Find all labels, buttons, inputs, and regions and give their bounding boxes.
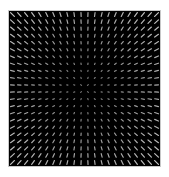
vector-segment: [95, 161, 96, 165]
vector-segment: [32, 140, 35, 143]
vector-segment: [121, 140, 123, 143]
vector-segment: [155, 161, 159, 165]
vector-segment: [95, 113, 96, 114]
vector-segment: [32, 147, 35, 150]
vector-segment: [155, 42, 159, 44]
vector-segment: [39, 42, 41, 44]
vector-segment: [53, 78, 55, 79]
vector-segment: [39, 13, 41, 17]
vector-segment: [108, 133, 109, 135]
vector-segment: [39, 34, 41, 37]
vector-segment: [74, 106, 75, 107]
vector-segment: [115, 106, 117, 107]
vector-segment: [53, 20, 55, 24]
vector-segment: [39, 147, 41, 150]
vector-segment: [128, 34, 130, 37]
vector-segment: [95, 126, 96, 128]
vector-segment: [11, 13, 15, 17]
vector-segment: [128, 27, 130, 30]
vector-segment: [95, 27, 96, 30]
vector-segment: [67, 126, 68, 128]
vector-segment: [135, 27, 138, 30]
vector-segment: [46, 161, 48, 165]
vector-segment: [121, 49, 123, 51]
vector-segment: [46, 20, 48, 24]
vector-segment: [11, 63, 15, 64]
vector-segment: [108, 49, 109, 51]
vector-segment: [121, 34, 123, 37]
vector-segment: [39, 119, 41, 121]
vector-segment: [11, 20, 15, 24]
vector-segment: [115, 56, 117, 58]
vector-segment: [53, 161, 55, 165]
vector-segment: [148, 13, 151, 17]
vector-segment: [115, 78, 117, 79]
vector-segment: [32, 13, 35, 17]
vector-segment: [74, 140, 75, 143]
vector-segment: [18, 42, 21, 44]
vector-segment: [148, 106, 151, 107]
vector-segment: [46, 99, 48, 100]
vector-segment: [135, 126, 138, 128]
vector-segment: [32, 106, 35, 107]
vector-segment: [101, 42, 102, 44]
vector-segment: [135, 154, 138, 158]
vector-segment: [60, 133, 61, 135]
vector-segment: [74, 126, 75, 128]
vector-segment: [53, 147, 55, 150]
vector-segment: [18, 20, 21, 24]
vector-segment: [108, 63, 109, 64]
vector-segment: [18, 13, 21, 17]
vector-segment: [60, 78, 61, 79]
vector-segment: [141, 119, 144, 121]
vector-segment: [128, 13, 130, 17]
vector-segment: [135, 119, 138, 121]
vector-segment: [60, 154, 61, 158]
vector-segment: [155, 119, 159, 121]
vector-segment: [18, 147, 21, 150]
vector-segment: [74, 27, 75, 30]
vector-segment: [115, 99, 117, 100]
vector-segment: [115, 140, 117, 143]
vector-segment: [18, 63, 21, 64]
vector-segment: [148, 78, 151, 79]
vector-segment: [46, 113, 48, 114]
vector-segment: [141, 20, 144, 24]
vector-segment: [148, 154, 151, 158]
vector-segment: [74, 34, 75, 37]
vector-segment: [46, 106, 48, 107]
vector-segment: [108, 161, 109, 165]
vector-segment: [39, 113, 41, 114]
vector-segment: [74, 113, 75, 114]
vector-segment: [141, 99, 144, 100]
vector-segment: [155, 13, 159, 17]
vector-segment: [46, 34, 48, 37]
vector-segment: [121, 70, 123, 71]
vector-segment: [32, 34, 35, 37]
vector-segment: [46, 49, 48, 51]
vector-segment: [11, 154, 15, 158]
vector-segment: [11, 78, 15, 79]
vector-segment: [60, 119, 61, 121]
vector-segment: [128, 99, 130, 100]
vector-segment: [115, 119, 117, 121]
vector-segment: [148, 133, 151, 135]
vector-segment: [11, 70, 15, 71]
vector-segment: [135, 70, 138, 71]
vector-segment: [155, 70, 159, 71]
vector-segment: [101, 34, 102, 37]
vector-segment: [101, 63, 102, 64]
vector-segment: [95, 154, 96, 158]
vector-segment: [135, 78, 138, 79]
vector-segment: [141, 126, 144, 128]
vector-segment: [32, 133, 35, 135]
vector-segment: [32, 126, 35, 128]
vector-segment: [121, 42, 123, 44]
vector-segment: [25, 78, 28, 79]
vector-segment: [60, 49, 61, 51]
vector-segment: [25, 140, 28, 143]
vector-segment: [108, 126, 109, 128]
vector-segment: [155, 99, 159, 100]
vector-segment: [18, 113, 21, 114]
vector-segment: [94, 99, 95, 100]
